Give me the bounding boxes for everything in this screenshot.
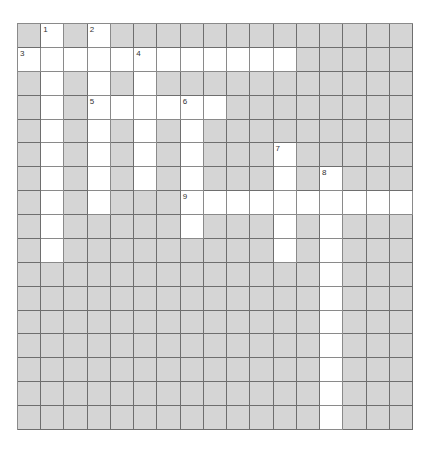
answer-cell[interactable] bbox=[320, 358, 343, 382]
answer-cell[interactable] bbox=[88, 120, 111, 144]
block-cell bbox=[320, 143, 343, 167]
answer-cell[interactable] bbox=[343, 191, 366, 215]
block-cell bbox=[18, 72, 41, 96]
answer-cell[interactable] bbox=[320, 406, 343, 430]
answer-cell[interactable] bbox=[41, 96, 64, 120]
block-cell bbox=[204, 263, 227, 287]
block-cell bbox=[204, 406, 227, 430]
answer-cell[interactable] bbox=[297, 191, 320, 215]
answer-cell[interactable] bbox=[227, 191, 250, 215]
answer-cell[interactable] bbox=[41, 48, 64, 72]
answer-cell[interactable] bbox=[88, 72, 111, 96]
answer-cell[interactable] bbox=[320, 263, 343, 287]
answer-cell[interactable] bbox=[41, 191, 64, 215]
answer-cell[interactable] bbox=[320, 311, 343, 335]
answer-cell[interactable] bbox=[134, 72, 157, 96]
answer-cell[interactable]: 8 bbox=[320, 167, 343, 191]
answer-cell[interactable] bbox=[88, 48, 111, 72]
answer-cell[interactable] bbox=[320, 287, 343, 311]
answer-cell[interactable]: 5 bbox=[88, 96, 111, 120]
answer-cell[interactable] bbox=[111, 96, 134, 120]
answer-cell[interactable] bbox=[88, 191, 111, 215]
block-cell bbox=[64, 167, 87, 191]
answer-cell[interactable] bbox=[134, 167, 157, 191]
answer-cell[interactable] bbox=[134, 96, 157, 120]
answer-cell[interactable]: 1 bbox=[41, 24, 64, 48]
answer-cell[interactable] bbox=[41, 167, 64, 191]
block-cell bbox=[111, 239, 134, 263]
block-cell bbox=[111, 72, 134, 96]
answer-cell[interactable] bbox=[181, 215, 204, 239]
block-cell bbox=[204, 382, 227, 406]
block-cell bbox=[88, 287, 111, 311]
block-cell bbox=[157, 239, 180, 263]
answer-cell[interactable]: 9 bbox=[181, 191, 204, 215]
answer-cell[interactable]: 6 bbox=[181, 96, 204, 120]
answer-cell[interactable] bbox=[274, 239, 297, 263]
answer-cell[interactable] bbox=[204, 96, 227, 120]
answer-cell[interactable] bbox=[41, 215, 64, 239]
block-cell bbox=[343, 406, 366, 430]
block-cell bbox=[390, 120, 413, 144]
answer-cell[interactable]: 7 bbox=[274, 143, 297, 167]
block-cell bbox=[181, 263, 204, 287]
answer-cell[interactable] bbox=[320, 239, 343, 263]
block-cell bbox=[227, 120, 250, 144]
block-cell bbox=[181, 334, 204, 358]
answer-cell[interactable] bbox=[41, 120, 64, 144]
block-cell bbox=[367, 406, 390, 430]
block-cell bbox=[274, 358, 297, 382]
answer-cell[interactable] bbox=[157, 96, 180, 120]
block-cell bbox=[64, 287, 87, 311]
block-cell bbox=[390, 311, 413, 335]
block-cell bbox=[367, 311, 390, 335]
answer-cell[interactable] bbox=[250, 191, 273, 215]
answer-cell[interactable] bbox=[274, 48, 297, 72]
answer-cell[interactable] bbox=[134, 143, 157, 167]
answer-cell[interactable] bbox=[157, 48, 180, 72]
answer-cell[interactable] bbox=[181, 48, 204, 72]
block-cell bbox=[274, 382, 297, 406]
block-cell bbox=[297, 287, 320, 311]
block-cell bbox=[18, 263, 41, 287]
answer-cell[interactable] bbox=[250, 48, 273, 72]
block-cell bbox=[18, 382, 41, 406]
answer-cell[interactable] bbox=[320, 191, 343, 215]
block-cell bbox=[18, 96, 41, 120]
answer-cell[interactable] bbox=[134, 120, 157, 144]
block-cell bbox=[227, 215, 250, 239]
answer-cell[interactable] bbox=[41, 72, 64, 96]
block-cell bbox=[111, 358, 134, 382]
answer-cell[interactable] bbox=[111, 48, 134, 72]
answer-cell[interactable] bbox=[204, 191, 227, 215]
block-cell bbox=[134, 358, 157, 382]
answer-cell[interactable] bbox=[274, 191, 297, 215]
answer-cell[interactable] bbox=[390, 191, 413, 215]
answer-cell[interactable] bbox=[204, 48, 227, 72]
answer-cell[interactable]: 4 bbox=[134, 48, 157, 72]
answer-cell[interactable] bbox=[181, 120, 204, 144]
clue-number: 3 bbox=[20, 49, 24, 58]
block-cell bbox=[204, 167, 227, 191]
block-cell bbox=[64, 358, 87, 382]
answer-cell[interactable] bbox=[274, 167, 297, 191]
answer-cell[interactable] bbox=[320, 334, 343, 358]
answer-cell[interactable] bbox=[227, 48, 250, 72]
answer-cell[interactable] bbox=[41, 143, 64, 167]
answer-cell[interactable]: 3 bbox=[18, 48, 41, 72]
answer-cell[interactable] bbox=[88, 167, 111, 191]
block-cell bbox=[157, 120, 180, 144]
block-cell bbox=[390, 215, 413, 239]
answer-cell[interactable] bbox=[41, 239, 64, 263]
answer-cell[interactable] bbox=[181, 143, 204, 167]
block-cell bbox=[274, 72, 297, 96]
answer-cell[interactable] bbox=[320, 382, 343, 406]
answer-cell[interactable] bbox=[181, 167, 204, 191]
answer-cell[interactable] bbox=[88, 143, 111, 167]
block-cell bbox=[111, 287, 134, 311]
answer-cell[interactable] bbox=[64, 48, 87, 72]
answer-cell[interactable] bbox=[274, 215, 297, 239]
answer-cell[interactable] bbox=[367, 191, 390, 215]
answer-cell[interactable]: 2 bbox=[88, 24, 111, 48]
answer-cell[interactable] bbox=[320, 215, 343, 239]
